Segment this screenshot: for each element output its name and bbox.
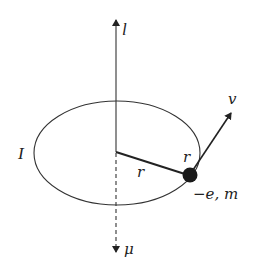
label-angular-momentum: l bbox=[122, 20, 127, 39]
electron-dot bbox=[183, 168, 198, 183]
radius-line bbox=[116, 152, 188, 175]
label-radius-inner: r bbox=[137, 163, 145, 181]
label-magnetic-moment: μ bbox=[124, 240, 134, 258]
label-velocity: v bbox=[228, 90, 237, 108]
orbit-diagram: l I r r v −e, m μ bbox=[0, 0, 264, 271]
label-charge-mass: −e, m bbox=[193, 185, 238, 203]
label-current: I bbox=[17, 144, 25, 163]
label-radius-outer: r bbox=[183, 148, 191, 166]
